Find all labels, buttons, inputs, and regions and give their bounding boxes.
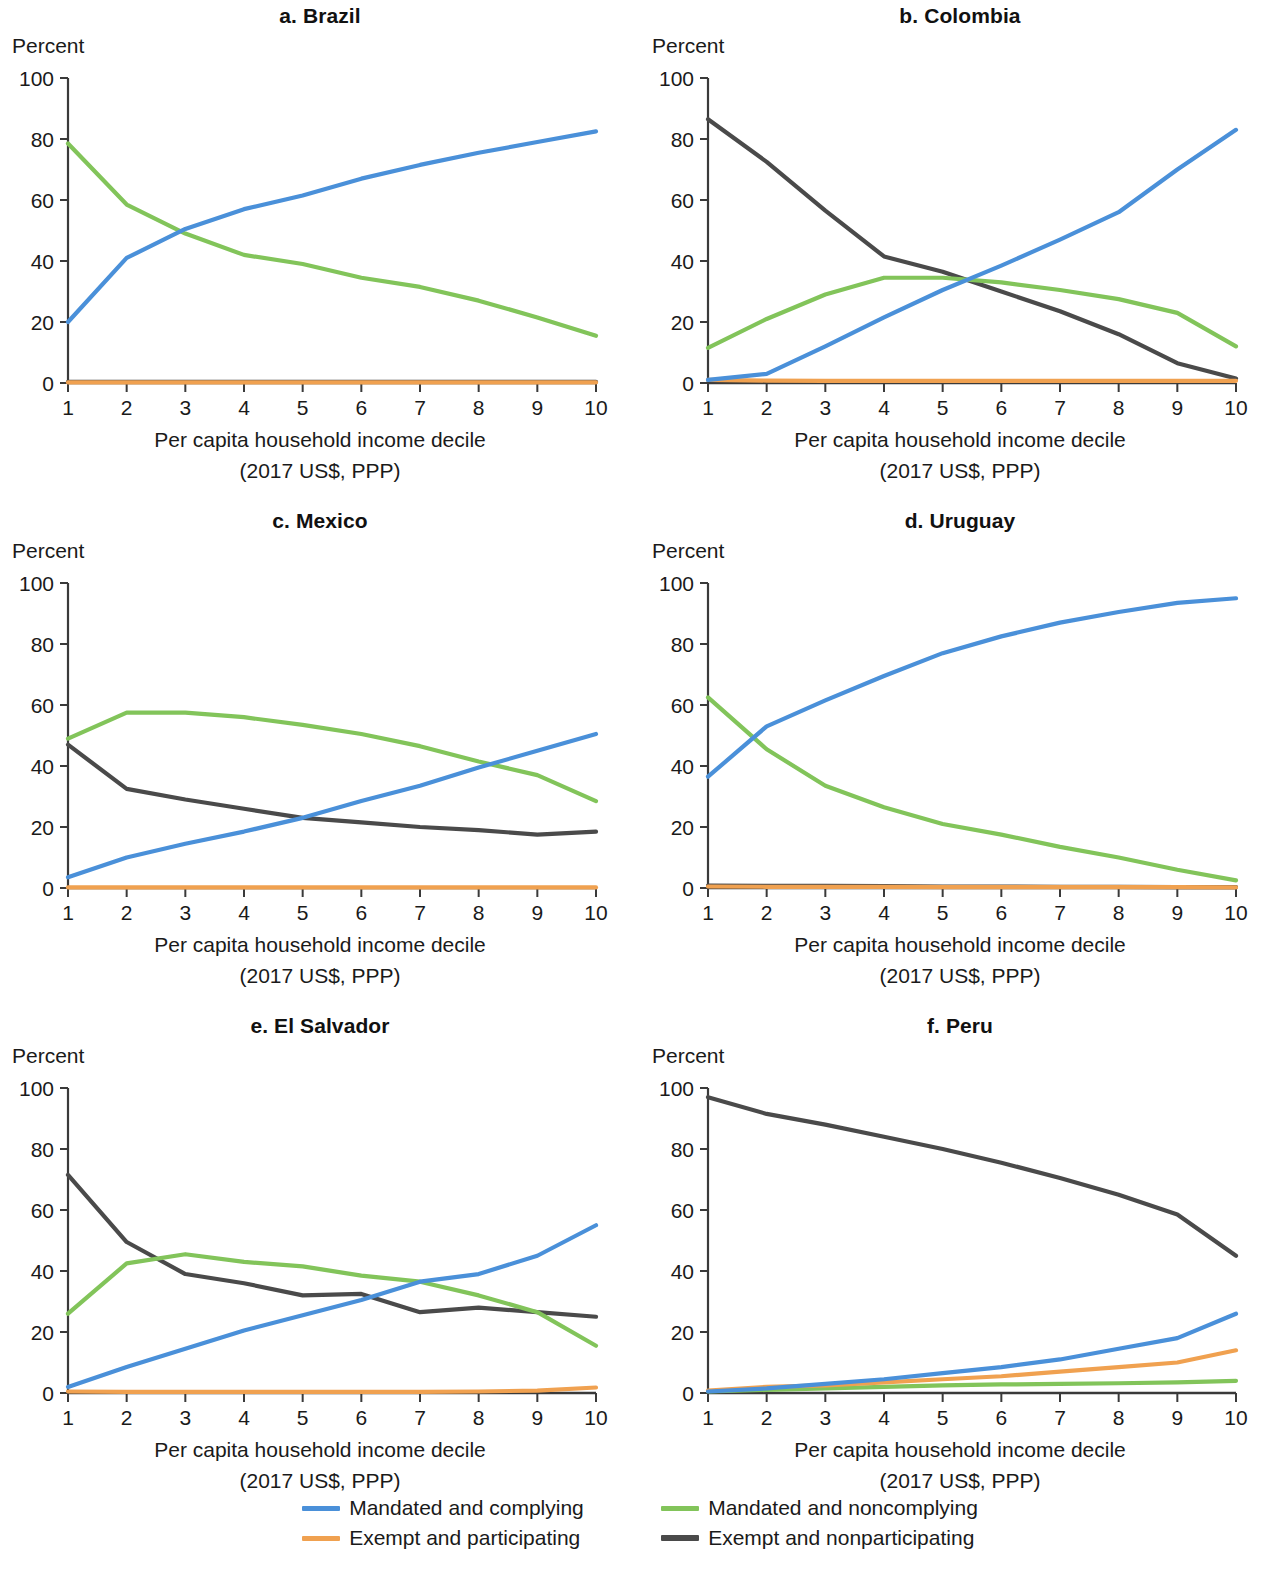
series-line (708, 598, 1236, 776)
series-line (708, 697, 1236, 880)
y-tick-label: 100 (19, 572, 54, 595)
legend-item-exempt_nonparticipating[interactable]: Exempt and nonparticipating (661, 1526, 978, 1550)
x-tick-label: 9 (1171, 396, 1183, 419)
y-tick-label: 60 (31, 189, 54, 212)
x-tick-label: 7 (414, 1406, 426, 1429)
x-tick-label: 10 (584, 396, 607, 419)
series-line (68, 1175, 596, 1317)
x-tick-label: 4 (238, 396, 250, 419)
panel-d: d. UruguayPercent02040608010012345678910… (640, 505, 1280, 1010)
x-tick-label: 1 (702, 396, 714, 419)
y-tick-label: 20 (671, 311, 694, 334)
x-tick-label: 2 (121, 396, 133, 419)
x-tick-label: 2 (121, 1406, 133, 1429)
y-tick-label: 100 (19, 67, 54, 90)
x-tick-label: 7 (414, 901, 426, 924)
y-tick-label: 40 (31, 1260, 54, 1283)
x-tick-label: 7 (1054, 1406, 1066, 1429)
x-axis-caption: Per capita household income decile(2017 … (640, 1434, 1280, 1496)
legend-swatch-icon (302, 1536, 340, 1541)
y-tick-label: 100 (19, 1077, 54, 1100)
x-tick-label: 10 (1224, 901, 1247, 924)
x-tick-label: 1 (62, 396, 74, 419)
x-tick-label: 9 (531, 901, 543, 924)
y-tick-label: 0 (682, 1382, 694, 1405)
x-tick-label: 3 (179, 901, 191, 924)
x-axis-caption-line2: (2017 US$, PPP) (0, 960, 640, 991)
x-tick-label: 4 (878, 396, 890, 419)
series-line (708, 886, 1236, 887)
x-tick-label: 7 (414, 396, 426, 419)
legend-item-mandated_noncomplying[interactable]: Mandated and noncomplying (661, 1496, 978, 1520)
y-tick-label: 80 (671, 633, 694, 656)
chart-legend: Mandated and complyingMandated and nonco… (0, 1496, 1280, 1550)
y-tick-label: 40 (31, 250, 54, 273)
y-tick-label: 0 (682, 372, 694, 395)
series-line (68, 1388, 596, 1392)
y-tick-label: 0 (42, 372, 54, 395)
x-tick-label: 10 (1224, 396, 1247, 419)
x-tick-label: 1 (702, 1406, 714, 1429)
series-line (68, 131, 596, 322)
y-tick-label: 0 (42, 1382, 54, 1405)
panel-c: c. MexicoPercent02040608010012345678910P… (0, 505, 640, 1010)
legend-item-mandated_complying[interactable]: Mandated and complying (302, 1496, 647, 1520)
series-line (708, 119, 1236, 378)
x-tick-label: 6 (995, 1406, 1007, 1429)
series-line (68, 1254, 596, 1346)
series-line (708, 130, 1236, 380)
x-axis-caption-line2: (2017 US$, PPP) (640, 455, 1280, 486)
x-tick-label: 5 (297, 396, 309, 419)
x-tick-label: 9 (531, 1406, 543, 1429)
y-tick-label: 100 (659, 1077, 694, 1100)
x-tick-label: 8 (1113, 901, 1125, 924)
legend-label: Mandated and noncomplying (708, 1496, 978, 1520)
x-tick-label: 2 (761, 901, 773, 924)
y-tick-label: 40 (671, 250, 694, 273)
x-tick-label: 8 (473, 1406, 485, 1429)
x-tick-label: 5 (297, 1406, 309, 1429)
series-line (68, 734, 596, 877)
y-tick-label: 60 (671, 694, 694, 717)
y-tick-label: 20 (31, 1321, 54, 1344)
x-tick-label: 1 (702, 901, 714, 924)
x-tick-label: 2 (761, 1406, 773, 1429)
y-tick-label: 60 (671, 189, 694, 212)
x-tick-label: 5 (937, 1406, 949, 1429)
legend-item-exempt_participating[interactable]: Exempt and participating (302, 1526, 647, 1550)
panel-grid: a. BrazilPercent02040608010012345678910P… (0, 0, 1280, 1515)
panel-a: a. BrazilPercent02040608010012345678910P… (0, 0, 640, 505)
y-tick-label: 80 (31, 633, 54, 656)
x-axis-caption-line1: Per capita household income decile (640, 929, 1280, 960)
x-axis-caption-line2: (2017 US$, PPP) (640, 960, 1280, 991)
legend-label: Exempt and participating (349, 1526, 580, 1550)
y-tick-label: 0 (42, 877, 54, 900)
y-tick-label: 40 (31, 755, 54, 778)
x-tick-label: 3 (819, 901, 831, 924)
legend-label: Exempt and nonparticipating (708, 1526, 974, 1550)
y-tick-label: 20 (31, 816, 54, 839)
legend-label: Mandated and complying (349, 1496, 584, 1520)
series-line (68, 144, 596, 336)
x-tick-label: 6 (355, 396, 367, 419)
x-tick-label: 2 (121, 901, 133, 924)
x-tick-label: 1 (62, 1406, 74, 1429)
x-axis-caption-line1: Per capita household income decile (640, 424, 1280, 455)
x-axis-caption: Per capita household income decile(2017 … (0, 929, 640, 991)
panel-f: f. PeruPercent02040608010012345678910Per… (640, 1010, 1280, 1515)
panel-b: b. ColombiaPercent0204060801001234567891… (640, 0, 1280, 505)
x-tick-label: 3 (179, 1406, 191, 1429)
x-tick-label: 8 (1113, 1406, 1125, 1429)
x-tick-label: 5 (297, 901, 309, 924)
x-tick-label: 4 (238, 901, 250, 924)
x-tick-label: 10 (1224, 1406, 1247, 1429)
x-tick-label: 4 (878, 1406, 890, 1429)
x-tick-label: 3 (819, 396, 831, 419)
panel-e: e. El SalvadorPercent0204060801001234567… (0, 1010, 640, 1515)
x-tick-label: 8 (473, 901, 485, 924)
y-tick-label: 100 (659, 572, 694, 595)
x-tick-label: 4 (878, 901, 890, 924)
series-line (708, 278, 1236, 348)
x-tick-label: 7 (1054, 901, 1066, 924)
x-tick-label: 8 (473, 396, 485, 419)
